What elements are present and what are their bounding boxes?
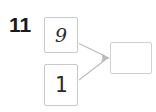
arrowhead-into-sum [101, 54, 110, 62]
arrow-addend-2-to-sum [79, 60, 105, 80]
sum-answer-box[interactable] [110, 42, 152, 74]
addend-1-value: 9 [45, 18, 77, 52]
addend-1-box[interactable]: 9 [44, 17, 78, 53]
question-number: 11 [9, 13, 31, 37]
sum-value [111, 43, 151, 73]
addend-2-box[interactable]: 1 [44, 64, 78, 106]
worksheet-canvas: 11 9 1 [0, 0, 156, 112]
addend-2-value: 1 [45, 65, 77, 105]
arrow-addend-1-to-sum [79, 44, 105, 57]
